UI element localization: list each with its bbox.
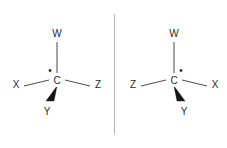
- substituent-label-w-right: W: [169, 28, 179, 39]
- stereocenter-left: • C W X Z Y: [13, 28, 101, 117]
- wedge-bond-c-y-left: [46, 86, 57, 101]
- bond-c-x-left: [24, 80, 49, 86]
- substituent-label-w-left: W: [52, 28, 62, 39]
- wedge-bond-c-y-right: [174, 86, 185, 101]
- substituent-label-x-left: X: [13, 79, 20, 90]
- substituent-label-y-right: Y: [181, 106, 188, 117]
- bond-c-z-left: [65, 80, 90, 86]
- substituent-label-x-right: X: [212, 79, 219, 90]
- stereocenter-dot-left: •: [48, 65, 52, 76]
- stereochemistry-figure: • C W X Z Y • C: [0, 0, 227, 148]
- substituent-label-z-right: Z: [130, 79, 136, 90]
- stereocenter-right: • C W Z X Y: [130, 28, 219, 117]
- substituent-label-y-left: Y: [44, 106, 51, 117]
- center-atom-label-right: C: [170, 75, 177, 86]
- bond-c-z-right: [141, 80, 166, 86]
- substituent-label-z-left: Z: [95, 79, 101, 90]
- bond-c-x-right: [182, 80, 207, 86]
- figure-canvas: • C W X Z Y • C: [0, 0, 227, 148]
- center-atom-label-left: C: [53, 75, 60, 86]
- stereocenter-dot-right: •: [179, 65, 183, 76]
